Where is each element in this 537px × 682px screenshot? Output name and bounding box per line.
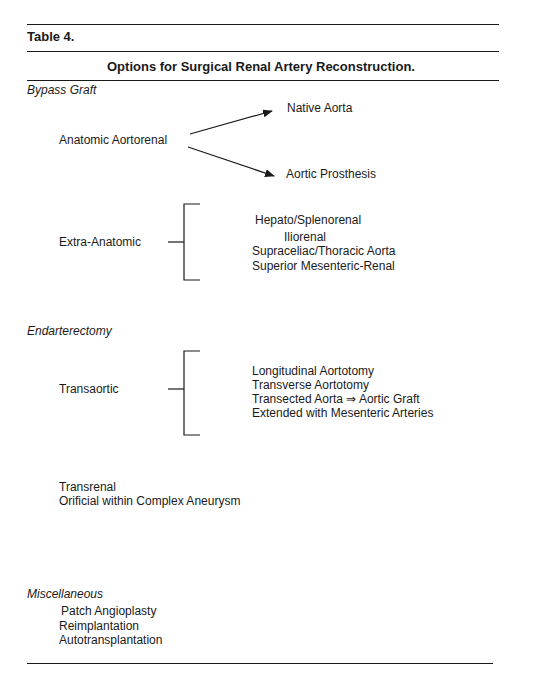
bracket-icon: [168, 204, 200, 280]
bracket-icon: [168, 351, 200, 435]
arrow-icon: [188, 111, 274, 176]
connector-lines: [0, 0, 537, 682]
